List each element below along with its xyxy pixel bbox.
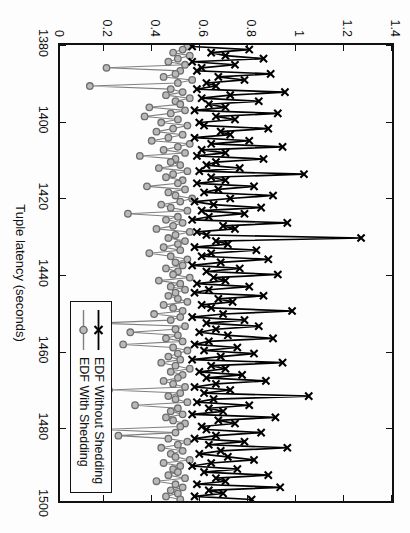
series-cross: [189, 45, 365, 501]
x-tick-label: 1460: [36, 324, 50, 376]
x-tick: [59, 352, 66, 353]
y-tick-label: 0: [52, 0, 66, 37]
y-tick: [151, 44, 152, 51]
x-tick: [386, 275, 393, 276]
legend-item: EDF Without Shedding: [91, 308, 106, 484]
y-tick-label: 1.4: [388, 0, 402, 37]
x-tick: [386, 428, 393, 429]
x-tick-label: 1420: [36, 170, 50, 222]
y-tick: [103, 44, 104, 51]
legend-label: EDF Without Shedding: [91, 357, 106, 484]
y-tick: [199, 44, 200, 51]
y-tick-label: 1.2: [340, 0, 354, 37]
x-tick: [386, 198, 393, 199]
x-tick-label: 1480: [36, 400, 50, 452]
x-tick: [59, 428, 66, 429]
y-tick: [295, 495, 296, 502]
y-tick: [391, 44, 392, 51]
y-tick-label: 0.6: [196, 0, 210, 37]
x-tick: [59, 45, 66, 46]
y-tick: [103, 495, 104, 502]
x-tick: [59, 198, 66, 199]
y-tick-label: 0.8: [244, 0, 258, 37]
x-tick-label: 1380: [36, 17, 50, 69]
y-tick: [343, 495, 344, 502]
x-tick: [59, 122, 66, 123]
legend-item: EDF With Shedding: [76, 308, 91, 484]
x-tick: [386, 352, 393, 353]
y-tick: [151, 495, 152, 502]
y-tick: [295, 44, 296, 51]
x-axis-title: Tuple latency (seconds): [13, 43, 28, 503]
x-tick-label: 1400: [36, 94, 50, 146]
chart-figure: 138014001420144014601480150000.20.40.60.…: [0, 0, 410, 533]
y-tick-label: 0.4: [148, 0, 162, 37]
legend-marker-circle-icon: [76, 308, 91, 352]
legend-label: EDF With Shedding: [76, 357, 91, 467]
x-tick: [386, 122, 393, 123]
chart-legend: EDF Without Shedding EDF With Shedding: [70, 301, 112, 493]
y-tick: [247, 44, 248, 51]
rotated-figure-container: 138014001420144014601480150000.20.40.60.…: [0, 0, 410, 533]
y-tick: [343, 44, 344, 51]
y-tick-label: 0.2: [100, 0, 114, 37]
y-tick: [391, 495, 392, 502]
y-tick: [199, 495, 200, 502]
y-tick: [247, 495, 248, 502]
y-tick-label: 1: [292, 0, 306, 37]
x-tick-label: 1500: [36, 477, 50, 529]
x-tick: [59, 275, 66, 276]
legend-marker-cross-x-icon: [91, 308, 106, 352]
x-tick-label: 1440: [36, 247, 50, 299]
